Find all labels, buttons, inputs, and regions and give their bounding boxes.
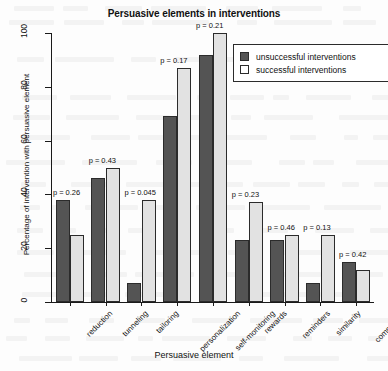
x-axis-tick	[320, 302, 321, 306]
y-axis-tick	[45, 302, 51, 303]
x-axis-tick	[141, 302, 142, 306]
legend-item-label: successful interventions	[256, 65, 346, 75]
open-square-icon	[240, 65, 249, 74]
bar-competition-unsuccessful	[342, 262, 356, 302]
bar-tunneling-successful	[106, 168, 120, 303]
x-axis-tick	[356, 302, 357, 306]
y-axis-tick-label: 40	[11, 187, 37, 201]
y-axis-tick-value: 80	[19, 72, 29, 98]
y-axis-tick-label: 60	[11, 134, 37, 148]
legend-item-label: unsuccessful interventions	[256, 52, 356, 62]
chart-legend: unsuccessful interventions successful in…	[233, 44, 388, 82]
y-axis-tick-value: 20	[19, 233, 29, 259]
filled-dark-square-icon	[240, 52, 249, 61]
x-axis-label-competition: competition	[373, 309, 388, 344]
y-axis-tick	[45, 194, 51, 195]
y-axis-tick	[45, 87, 51, 88]
bar-rewards-unsuccessful	[235, 240, 249, 302]
x-axis-label-reduction: reduction	[85, 309, 115, 339]
x-axis-tick	[249, 302, 250, 306]
y-axis-tick	[45, 33, 51, 34]
x-axis-label-similarity: similarity	[334, 309, 362, 337]
p-value-label-reminders: p = 0.46	[268, 223, 295, 232]
y-axis-line	[51, 33, 52, 303]
x-axis-tick	[213, 302, 214, 306]
y-axis-tick-value: 60	[19, 126, 29, 152]
p-value-label-tailoring: p = 0.045	[124, 188, 156, 197]
p-value-label-competition: p = 0.42	[339, 250, 366, 259]
p-value-label-reduction: p = 0.26	[53, 188, 80, 197]
bar-similarity-unsuccessful	[306, 283, 320, 302]
bar-reduction-successful	[70, 235, 84, 302]
p-value-label-rewards: p = 0.23	[232, 190, 259, 199]
bar-reminders-unsuccessful	[270, 240, 284, 302]
y-axis-tick-value: 40	[19, 179, 29, 205]
p-value-label-self-monitoring: p = 0.21	[196, 21, 223, 30]
p-value-label-similarity: p = 0.13	[303, 223, 330, 232]
bar-self-monitoring-unsuccessful	[199, 55, 213, 302]
y-axis-tick-label: 0	[11, 295, 37, 309]
bar-self-monitoring-successful	[213, 33, 227, 302]
bar-personalization-successful	[177, 68, 191, 302]
y-axis-tick-value: 0	[19, 287, 29, 313]
bar-tailoring-unsuccessful	[127, 283, 141, 302]
x-axis-tick	[177, 302, 178, 306]
p-value-label-personalization: p = 0.17	[160, 56, 187, 65]
y-axis-tick	[45, 141, 51, 142]
y-axis-tick-label: 80	[11, 80, 37, 94]
bar-personalization-unsuccessful	[163, 116, 177, 302]
bar-rewards-successful	[249, 202, 263, 302]
chart-title: Persuasive elements in interventions	[0, 8, 388, 19]
bar-competition-successful	[356, 270, 370, 302]
x-axis-label-tailoring: tailoring	[155, 309, 181, 335]
bar-similarity-successful	[321, 235, 335, 302]
y-axis-tick-value: 100	[19, 18, 29, 44]
legend-item-unsuccessful: unsuccessful interventions	[240, 50, 383, 63]
legend-item-successful: successful interventions	[240, 63, 383, 76]
y-axis-tick-label: 100	[11, 26, 37, 40]
y-axis-tick-label: 20	[11, 241, 37, 255]
bar-chart-figure: Persuasive elements in interventions Per…	[0, 0, 388, 371]
y-axis-tick	[45, 248, 51, 249]
bar-tailoring-successful	[142, 200, 156, 302]
x-axis-label-tunneling: tunneling	[120, 309, 149, 338]
bar-tunneling-unsuccessful	[91, 178, 105, 302]
bar-reduction-unsuccessful	[56, 200, 70, 302]
x-axis-tick	[106, 302, 107, 306]
x-axis-label-reminders: reminders	[300, 309, 332, 341]
x-axis-tick	[70, 302, 71, 306]
x-axis-tick	[285, 302, 286, 306]
x-axis-title: Persuasive element	[0, 350, 388, 360]
p-value-label-tunneling: p = 0.43	[89, 156, 116, 165]
bar-reminders-successful	[285, 235, 299, 302]
